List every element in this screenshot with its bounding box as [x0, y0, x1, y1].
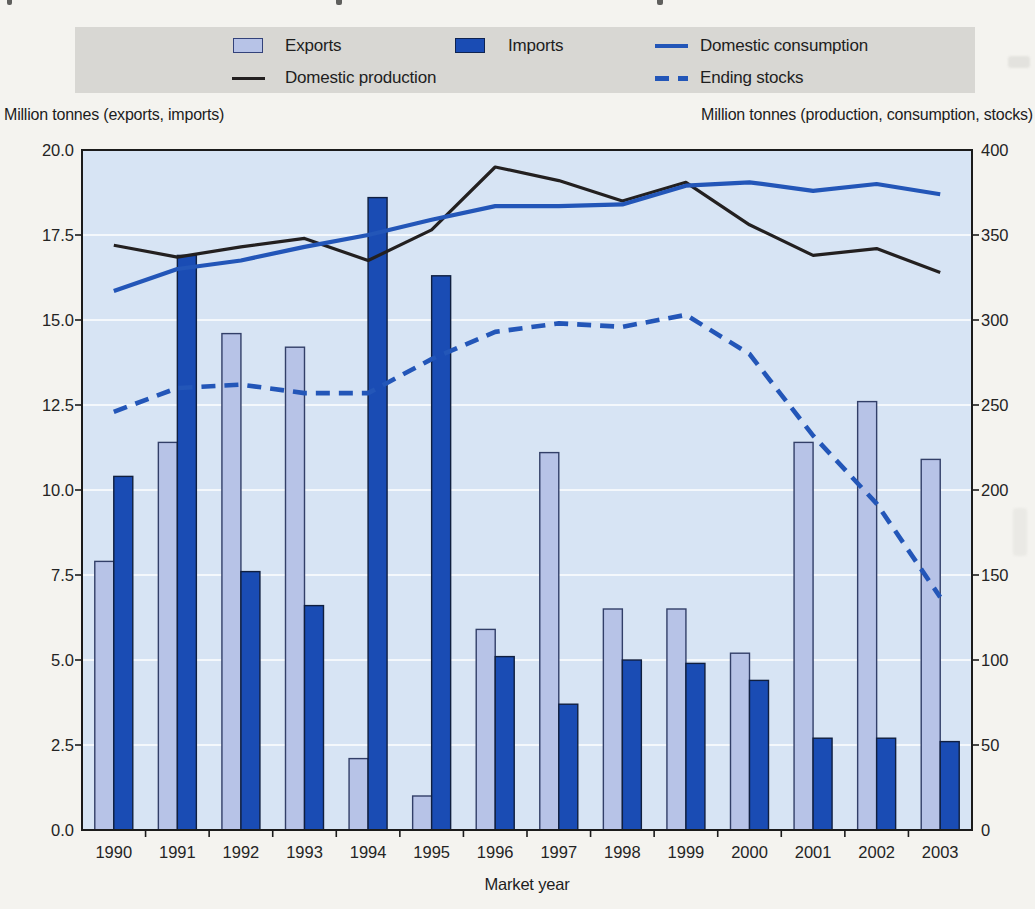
- svg-text:300: 300: [981, 311, 1009, 329]
- imports-bar-1993: [305, 606, 324, 830]
- imports-bar-1997: [559, 704, 578, 830]
- right-axis-ticks: [972, 235, 979, 745]
- year-label-1993: 1993: [286, 843, 323, 861]
- exports-bar-1997: [540, 453, 559, 830]
- imports-bar-2001: [813, 738, 832, 830]
- svg-text:7.5: 7.5: [51, 566, 74, 584]
- year-label-1994: 1994: [350, 843, 387, 861]
- x-axis-labels: 1990199119921993199419951996199719981999…: [95, 843, 958, 861]
- exports-bar-1999: [667, 609, 686, 830]
- svg-text:20.0: 20.0: [42, 141, 74, 159]
- svg-text:5.0: 5.0: [51, 651, 74, 669]
- imports-bar-1994: [368, 198, 387, 830]
- exports-bar-2003: [921, 459, 940, 830]
- imports-bar-1996: [495, 657, 514, 830]
- exports-bar-2001: [794, 442, 813, 830]
- svg-text:50: 50: [981, 736, 999, 754]
- imports-bar-1998: [622, 660, 641, 830]
- left-axis-labels: 0.02.55.07.510.012.515.017.520.0: [42, 141, 74, 839]
- year-label-1995: 1995: [413, 843, 450, 861]
- imports-bar-2002: [877, 738, 896, 830]
- left-axis-ticks: [75, 235, 82, 745]
- year-label-1997: 1997: [540, 843, 577, 861]
- year-label-1992: 1992: [223, 843, 260, 861]
- svg-text:350: 350: [981, 226, 1009, 244]
- svg-text:12.5: 12.5: [42, 396, 74, 414]
- imports-bar-2003: [940, 742, 959, 830]
- svg-text:0.0: 0.0: [51, 821, 74, 839]
- svg-text:150: 150: [981, 566, 1009, 584]
- svg-text:2.5: 2.5: [51, 736, 74, 754]
- year-label-2002: 2002: [858, 843, 895, 861]
- svg-text:0: 0: [981, 821, 990, 839]
- scanned-page: { "ui": { "legend": { "items": [ {"id": …: [0, 0, 1035, 909]
- exports-bar-1993: [286, 347, 305, 830]
- year-label-1996: 1996: [477, 843, 514, 861]
- imports-bar-1992: [241, 572, 260, 830]
- svg-text:17.5: 17.5: [42, 226, 74, 244]
- year-label-1991: 1991: [159, 843, 196, 861]
- svg-text:400: 400: [981, 141, 1009, 159]
- exports-bar-1992: [222, 334, 241, 830]
- imports-bar-2000: [750, 680, 769, 830]
- x-axis-ticks: [146, 830, 909, 837]
- year-label-1990: 1990: [95, 843, 132, 861]
- exports-bar-1990: [95, 561, 114, 830]
- exports-bar-2002: [858, 402, 877, 830]
- x-axis-title: Market year: [82, 875, 972, 894]
- year-label-2001: 2001: [795, 843, 832, 861]
- imports-bar-1999: [686, 663, 705, 830]
- imports-bar-1990: [114, 476, 133, 830]
- imports-bar-1991: [177, 255, 196, 830]
- year-label-2000: 2000: [731, 843, 768, 861]
- exports-bar-2000: [731, 653, 750, 830]
- exports-bar-1995: [413, 796, 432, 830]
- exports-bar-1998: [603, 609, 622, 830]
- svg-text:100: 100: [981, 651, 1009, 669]
- svg-text:10.0: 10.0: [42, 481, 74, 499]
- right-axis-labels: 050100150200250300350400: [981, 141, 1009, 839]
- svg-text:200: 200: [981, 481, 1009, 499]
- year-label-1998: 1998: [604, 843, 641, 861]
- svg-text:15.0: 15.0: [42, 311, 74, 329]
- year-label-2003: 2003: [922, 843, 959, 861]
- year-label-1999: 1999: [668, 843, 705, 861]
- svg-text:250: 250: [981, 396, 1009, 414]
- combo-chart: 0.02.55.07.510.012.515.017.520.005010015…: [0, 0, 1035, 909]
- exports-bar-1996: [476, 629, 495, 830]
- exports-bar-1991: [158, 442, 177, 830]
- exports-bar-1994: [349, 759, 368, 830]
